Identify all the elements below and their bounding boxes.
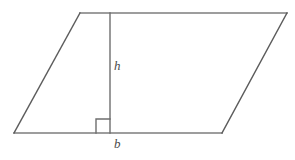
base-label: b: [114, 137, 121, 150]
right-angle-marker-icon: [96, 119, 110, 133]
parallelogram-figure: h b: [0, 0, 295, 160]
parallelogram-left-edge: [14, 13, 80, 133]
parallelogram-diagram-svg: [0, 0, 295, 160]
parallelogram-right-edge: [222, 13, 287, 133]
height-label: h: [114, 59, 121, 72]
